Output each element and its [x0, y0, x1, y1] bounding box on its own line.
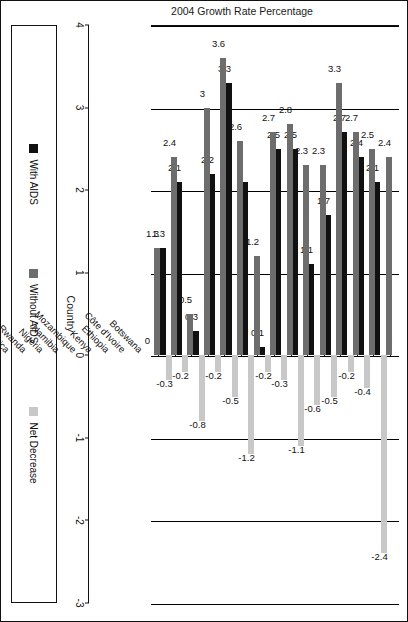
- bar-group: 2.6-0.5: [234, 25, 251, 603]
- value-axis-title: 2004 Growth Rate Percentage: [77, 3, 407, 19]
- bar-with-aids: [341, 132, 347, 355]
- bar-without-aids: [270, 132, 276, 355]
- chart-frame: 2004 Growth Rate Percentage 02.4-2.42.12…: [0, 0, 408, 622]
- bar-group: 02.4-2.4: [382, 25, 399, 603]
- bar-without-aids: [386, 157, 392, 355]
- bar-without-aids: [187, 314, 193, 355]
- bar-without-aids: [369, 149, 375, 355]
- bar-without-aids: [353, 132, 359, 355]
- bar-with-aids: [308, 264, 314, 355]
- chart-legend: With AIDSWithout AIDSNet Decrease: [11, 25, 57, 603]
- bar-with-aids: [176, 182, 182, 355]
- bar-without-aids: [237, 141, 243, 356]
- bar-group: 2.12.4-0.3: [168, 25, 185, 603]
- bar-group: 0.11.2-1.2: [250, 25, 267, 603]
- bar-without-aids: [303, 165, 309, 355]
- bar-without-aids: [171, 157, 177, 355]
- legend-swatch-icon: [30, 269, 39, 278]
- bar-group: 2.52.7-0.2: [267, 25, 284, 603]
- bar-without-aids: [320, 165, 326, 355]
- legend-item[interactable]: Without AIDS: [29, 269, 40, 343]
- bar-with-aids: [374, 182, 380, 355]
- bar-group: 2.12.5-0.4: [366, 25, 383, 603]
- bar-group: 2.52.8-0.3: [283, 25, 300, 603]
- legend-label: Net Decrease: [29, 422, 40, 483]
- bar-without-aids: [154, 248, 160, 355]
- bar-group: 0.30.5-0.2: [184, 25, 201, 603]
- bar-without-aids: [204, 108, 210, 356]
- bar-with-aids: [292, 149, 298, 355]
- bar-rows: 02.4-2.42.12.5-0.42.42.7-0.22.73.3-0.51.…: [151, 25, 399, 603]
- bar-group: 2.42.7-0.2: [349, 25, 366, 603]
- bar-with-aids: [160, 248, 166, 355]
- bar-group: 1.31.30: [151, 25, 168, 603]
- bar-with-aids: [275, 149, 281, 355]
- bar-group: 1.12.3-1.1: [300, 25, 317, 603]
- bar-with-aids: [209, 174, 215, 356]
- bar-with-aids: [259, 347, 265, 355]
- plot-area: 02.4-2.42.12.5-0.42.42.7-0.22.73.3-0.51.…: [151, 25, 399, 603]
- legend-item[interactable]: With AIDS: [29, 144, 40, 205]
- value-axis-title-text: 2004 Growth Rate Percentage: [171, 5, 313, 17]
- category-axis-labels: BotswanaCôte d'IvoireEthiopiaKenyaMozamb…: [89, 25, 149, 603]
- bar-without-aids: [254, 256, 260, 355]
- bar-group: 1.72.3-0.6: [316, 25, 333, 603]
- legend-label: With AIDS: [29, 159, 40, 205]
- bar-group: 3.33.6-0.2: [217, 25, 234, 603]
- legend-swatch-icon: [30, 144, 39, 153]
- bar-without-aids: [220, 58, 226, 355]
- bar-without-aids: [287, 124, 293, 355]
- chart-rotation-stage: 2004 Growth Rate Percentage 02.4-2.42.12…: [0, 0, 408, 622]
- bar-with-aids: [226, 83, 232, 355]
- category-axis-title: Country: [63, 25, 77, 603]
- gridline--3: [151, 604, 399, 605]
- bar-with-aids: [325, 215, 331, 355]
- bar-group: 2.23-0.8: [201, 25, 218, 603]
- legend-label: Without AIDS: [29, 284, 40, 343]
- bar-with-aids: [358, 157, 364, 355]
- legend-swatch-icon: [30, 407, 39, 416]
- bar-with-aids: [193, 331, 199, 356]
- bar-with-aids: [242, 182, 248, 355]
- bar-group: 2.73.3-0.5: [333, 25, 350, 603]
- legend-item[interactable]: Net Decrease: [29, 407, 40, 483]
- bar-without-aids: [336, 83, 342, 355]
